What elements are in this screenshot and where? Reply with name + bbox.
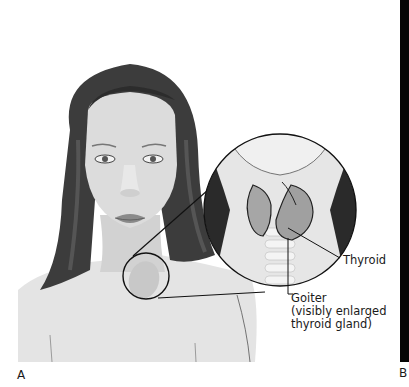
goiter-label: Goiter (visibly enlarged thyroid gland) bbox=[291, 292, 386, 331]
thyroid-label: Thyroid bbox=[343, 254, 386, 267]
panel-label-a: A bbox=[17, 368, 25, 382]
panel-label-b: B bbox=[399, 366, 407, 380]
goiter-label-line3: thyroid gland) bbox=[291, 318, 386, 331]
panel-b-edge bbox=[400, 0, 409, 362]
